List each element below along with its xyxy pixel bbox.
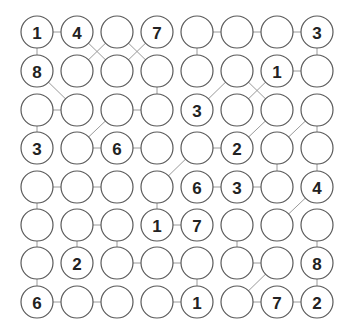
- puzzle-cell[interactable]: 6: [21, 286, 53, 318]
- puzzle-cell[interactable]: 7: [261, 286, 293, 318]
- puzzle-cell[interactable]: [261, 94, 293, 126]
- cell-circle[interactable]: [21, 247, 53, 279]
- cell-circle[interactable]: [221, 247, 253, 279]
- cell-circle[interactable]: [261, 132, 293, 164]
- puzzle-cell[interactable]: [61, 132, 93, 164]
- puzzle-cell[interactable]: [301, 209, 333, 241]
- puzzle-cell[interactable]: 2: [221, 132, 253, 164]
- puzzle-cell[interactable]: [101, 247, 133, 279]
- puzzle-cell[interactable]: [101, 286, 133, 318]
- puzzle-cell[interactable]: 3: [181, 94, 213, 126]
- puzzle-cell[interactable]: [141, 132, 173, 164]
- puzzle-cell[interactable]: [101, 16, 133, 48]
- puzzle-cell[interactable]: [181, 16, 213, 48]
- cell-circle[interactable]: [221, 55, 253, 87]
- cell-circle[interactable]: [61, 55, 93, 87]
- puzzle-cell[interactable]: 8: [21, 55, 53, 87]
- puzzle-cell[interactable]: [141, 55, 173, 87]
- puzzle-cell[interactable]: [61, 286, 93, 318]
- cell-circle[interactable]: [101, 286, 133, 318]
- puzzle-cell[interactable]: [21, 94, 53, 126]
- cell-circle[interactable]: [101, 247, 133, 279]
- puzzle-cell[interactable]: [21, 171, 53, 203]
- puzzle-cell[interactable]: [301, 132, 333, 164]
- cell-circle[interactable]: [21, 209, 53, 241]
- cell-circle[interactable]: [101, 209, 133, 241]
- puzzle-cell[interactable]: 7: [141, 16, 173, 48]
- puzzle-cell[interactable]: 2: [61, 247, 93, 279]
- puzzle-cell[interactable]: [261, 209, 293, 241]
- cell-circle[interactable]: [141, 286, 173, 318]
- puzzle-cell[interactable]: [101, 171, 133, 203]
- puzzle-cell[interactable]: 4: [61, 16, 93, 48]
- puzzle-cell[interactable]: [181, 55, 213, 87]
- cell-circle[interactable]: [261, 209, 293, 241]
- cell-circle[interactable]: [61, 171, 93, 203]
- puzzle-cell[interactable]: [141, 286, 173, 318]
- cell-circle[interactable]: [261, 171, 293, 203]
- cell-circle[interactable]: [21, 171, 53, 203]
- cell-circle[interactable]: [141, 171, 173, 203]
- puzzle-cell[interactable]: [221, 55, 253, 87]
- puzzle-cell[interactable]: 1: [21, 16, 53, 48]
- cell-circle[interactable]: [181, 16, 213, 48]
- puzzle-cell[interactable]: 1: [181, 286, 213, 318]
- puzzle-cell[interactable]: [221, 16, 253, 48]
- puzzle-cell[interactable]: 1: [141, 209, 173, 241]
- cell-circle[interactable]: [221, 286, 253, 318]
- puzzle-cell[interactable]: [301, 94, 333, 126]
- puzzle-cell[interactable]: [261, 247, 293, 279]
- cell-circle[interactable]: [61, 286, 93, 318]
- cell-circle[interactable]: [61, 209, 93, 241]
- puzzle-cell[interactable]: [261, 132, 293, 164]
- cell-circle[interactable]: [101, 94, 133, 126]
- cell-circle[interactable]: [181, 55, 213, 87]
- puzzle-cell[interactable]: 3: [21, 132, 53, 164]
- cell-circle[interactable]: [141, 94, 173, 126]
- cell-circle[interactable]: [301, 55, 333, 87]
- cell-circle[interactable]: [301, 94, 333, 126]
- cell-circle[interactable]: [61, 94, 93, 126]
- cell-circle[interactable]: [101, 16, 133, 48]
- puzzle-cell[interactable]: [261, 171, 293, 203]
- puzzle-cell[interactable]: [21, 209, 53, 241]
- puzzle-cell[interactable]: [61, 55, 93, 87]
- puzzle-cell[interactable]: [61, 171, 93, 203]
- puzzle-cell[interactable]: [141, 247, 173, 279]
- puzzle-cell[interactable]: 3: [301, 16, 333, 48]
- puzzle-cell[interactable]: 1: [261, 55, 293, 87]
- puzzle-cell[interactable]: [221, 209, 253, 241]
- puzzle-cell[interactable]: 2: [301, 286, 333, 318]
- cell-circle[interactable]: [141, 132, 173, 164]
- cell-circle[interactable]: [101, 171, 133, 203]
- cell-circle[interactable]: [21, 94, 53, 126]
- puzzle-cell[interactable]: [301, 55, 333, 87]
- puzzle-cell[interactable]: 6: [101, 132, 133, 164]
- cell-circle[interactable]: [101, 55, 133, 87]
- puzzle-cell[interactable]: 8: [301, 247, 333, 279]
- puzzle-cell[interactable]: [181, 247, 213, 279]
- cell-circle[interactable]: [181, 132, 213, 164]
- puzzle-cell[interactable]: [221, 247, 253, 279]
- cell-circle[interactable]: [141, 247, 173, 279]
- puzzle-cell[interactable]: [101, 55, 133, 87]
- cell-circle[interactable]: [221, 209, 253, 241]
- cell-circle[interactable]: [181, 247, 213, 279]
- puzzle-cell[interactable]: [141, 171, 173, 203]
- puzzle-cell[interactable]: [221, 286, 253, 318]
- cell-circle[interactable]: [61, 132, 93, 164]
- cell-circle[interactable]: [221, 16, 253, 48]
- puzzle-cell[interactable]: 3: [221, 171, 253, 203]
- cell-circle[interactable]: [261, 94, 293, 126]
- puzzle-cell[interactable]: 4: [301, 171, 333, 203]
- puzzle-cell[interactable]: 7: [181, 209, 213, 241]
- cell-circle[interactable]: [141, 55, 173, 87]
- cell-circle[interactable]: [261, 247, 293, 279]
- puzzle-cell[interactable]: [141, 94, 173, 126]
- cell-circle[interactable]: [261, 16, 293, 48]
- cell-circle[interactable]: [301, 132, 333, 164]
- puzzle-cell[interactable]: [61, 209, 93, 241]
- puzzle-cell[interactable]: [221, 94, 253, 126]
- puzzle-cell[interactable]: 6: [181, 171, 213, 203]
- cell-circle[interactable]: [221, 94, 253, 126]
